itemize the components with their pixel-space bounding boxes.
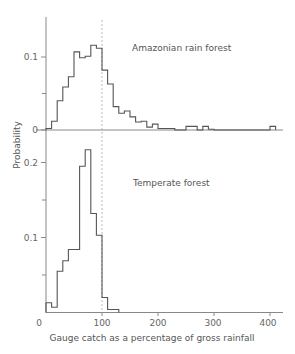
top-ytick-label-0: 0 [32,125,38,135]
xtick-label-300: 300 [204,318,221,328]
x-axis-title: Gauge catch as a percentage of gross rai… [50,333,255,343]
top-panel-label: Amazonian rain forest [132,43,232,53]
bottom-ytick-label-01: 0.1 [24,233,38,243]
top-ytick-label-01: 0.1 [24,52,38,62]
xtick-label-200: 200 [149,318,166,328]
xtick-label-400: 400 [259,318,276,328]
xtick-label-100: 100 [93,318,110,328]
y-axis-title: Probability [12,121,22,169]
top-histogram-steps [46,45,276,130]
bottom-ytick-label-02: 0.2 [24,158,38,168]
bottom-panel: 0.1 0.2 Temperate forest 0 100 200 300 4… [24,132,283,328]
histogram-figure: 0 0.1 Amazonian rain forest 0.1 0.2 Temp… [0,0,295,354]
xtick-label-0: 0 [36,318,42,328]
bottom-panel-label: Temperate forest [132,178,210,188]
top-panel: 0 0.1 Amazonian rain forest [24,17,283,135]
bottom-histogram-steps [46,150,119,313]
